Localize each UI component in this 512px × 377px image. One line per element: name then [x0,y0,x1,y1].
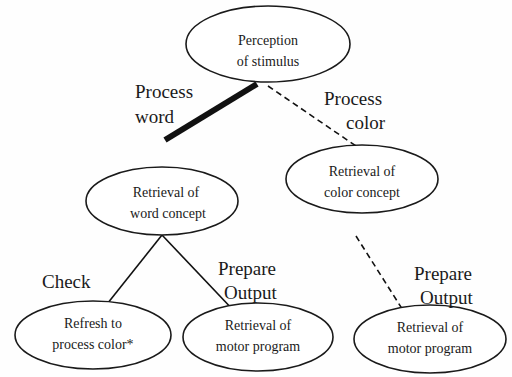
node-refresh-line2: process color* [52,337,133,352]
node-refresh: Refresh to process color* [15,301,171,369]
node-motor-word-line2: motor program [216,339,300,354]
node-refresh-line1: Refresh to [64,316,122,331]
node-color-concept: Retrieval of color concept [286,145,438,213]
node-perception-line1: Perception [238,33,298,48]
node-motor-color: Retrieval of motor program [354,305,506,373]
node-word-concept-line1: Retrieval of [133,185,200,200]
node-word-concept-line2: word concept [130,206,206,221]
node-motor-word: Retrieval of motor program [183,303,333,371]
label-process-word-line2: word [135,106,175,127]
node-color-concept-line2: color concept [324,185,400,200]
node-motor-word-line1: Retrieval of [225,318,292,333]
node-motor-color-line1: Retrieval of [397,320,464,335]
label-prepare-output-word-line1: Prepare [218,258,276,279]
label-prepare-output-color-line2: Output [420,287,474,308]
label-check: Check [42,271,91,292]
node-perception: Perception of stimulus [186,6,350,82]
node-perception-line2: of stimulus [237,54,300,69]
label-process-color-line2: color [346,112,386,133]
node-motor-color-line2: motor program [388,341,472,356]
label-process-color-line1: Process [324,88,382,109]
label-prepare-output-word-line2: Output [224,282,278,303]
node-word-concept: Retrieval of word concept [86,167,238,235]
label-prepare-output-color-line1: Prepare [414,263,472,284]
node-color-concept-line1: Retrieval of [329,164,396,179]
diagram-canvas: Perception of stimulus Retrieval of colo… [0,0,512,377]
label-process-word-line1: Process [135,81,193,102]
